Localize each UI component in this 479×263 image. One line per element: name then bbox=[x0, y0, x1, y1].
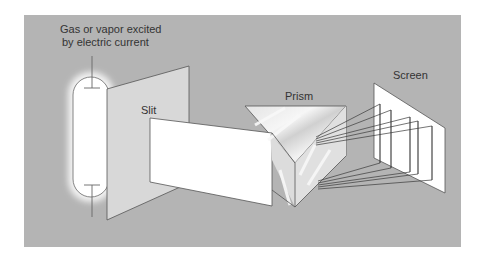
slit-label: Slit bbox=[141, 104, 156, 116]
tube-body bbox=[73, 77, 109, 197]
screen-label: Screen bbox=[393, 69, 428, 81]
source-label-line1: Gas or vapor excited bbox=[60, 23, 162, 35]
spectroscope-diagram: Gas or vapor excited by electric current… bbox=[0, 0, 479, 263]
source-label-line2: by electric current bbox=[62, 36, 149, 48]
prism-label: Prism bbox=[285, 90, 313, 102]
